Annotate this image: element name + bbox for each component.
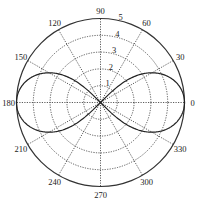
angle-label-240: 240	[48, 177, 61, 187]
radial-tick-labels: 12345	[106, 12, 123, 88]
angle-label-210: 210	[14, 144, 27, 154]
angle-label-180: 180	[2, 98, 15, 108]
angle-label-0: 0	[190, 98, 194, 108]
radial-label-3: 3	[112, 45, 116, 55]
angle-label-150: 150	[14, 52, 27, 62]
angle-label-270: 270	[94, 190, 107, 200]
angle-label-90: 90	[96, 6, 105, 16]
angle-label-120: 120	[48, 18, 61, 28]
grid-spoke-120	[59, 30, 101, 103]
grid-spoke-210	[28, 103, 101, 145]
angle-label-60: 60	[142, 18, 151, 28]
angle-label-330: 330	[174, 144, 187, 154]
grid-spoke-240	[59, 103, 101, 176]
radial-label-4: 4	[115, 29, 120, 39]
grid-spoke-60	[101, 30, 143, 103]
radial-label-5: 5	[118, 12, 122, 22]
grid-spoke-300	[101, 103, 143, 176]
angle-label-300: 300	[140, 177, 153, 187]
grid-spoke-330	[101, 103, 174, 145]
radial-label-2: 2	[109, 62, 113, 72]
angle-label-30: 30	[176, 52, 185, 62]
polar-chart: 0306090120150180210240270300330 12345	[0, 0, 197, 204]
grid-spoke-150	[28, 61, 101, 103]
radial-label-1: 1	[106, 78, 110, 88]
